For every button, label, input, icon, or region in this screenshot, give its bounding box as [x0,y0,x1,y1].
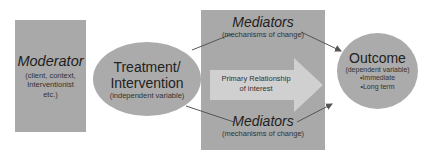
primary-label-line: Primary Relationship [210,74,302,84]
primary-relationship-label: Primary Relationship of interest [210,74,302,94]
mediators-bottom: Mediators (mechanisms of change) [201,113,325,139]
mediators-top: Mediators (mechanisms of change) [201,14,325,40]
mediators-top-subtitle: (mechanisms of change) [201,30,325,40]
primary-label-line: of interest [210,84,302,94]
outcome-ellipse: Outcome (dependent variable) •Immediate … [337,33,418,109]
outcome-bullet: •Long term [361,83,395,92]
mediators-top-title: Mediators [201,14,325,30]
outcome-bullet: •Immediate [360,74,395,83]
outcome-subtitle: (dependent variable) [345,66,409,75]
mediators-bottom-title: Mediators [201,113,325,129]
outcome-title: Outcome [349,51,406,66]
mediators-bottom-subtitle: (mechanisms of change) [201,129,325,139]
